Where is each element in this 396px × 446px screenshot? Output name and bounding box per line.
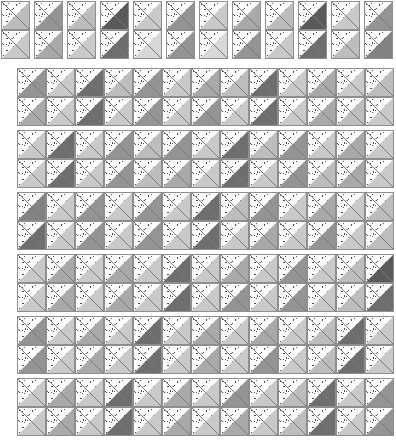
- header-tile-cell: [364, 1, 393, 30]
- band-cell: [249, 130, 278, 159]
- diagonal-edge: [18, 160, 45, 187]
- band-cell: [336, 130, 365, 159]
- band-cell: [336, 345, 365, 374]
- band-cell: [75, 159, 104, 188]
- diagonal-edge: [76, 379, 103, 406]
- band-cell: [220, 378, 249, 407]
- band-cell: [75, 130, 104, 159]
- diagonal-edge: [47, 255, 74, 282]
- diagonal-edge: [221, 69, 248, 96]
- band-cell: [249, 254, 278, 283]
- diagonal-edge: [192, 379, 219, 406]
- diagonal-edge: [366, 284, 393, 311]
- diagonal-edge: [250, 379, 277, 406]
- band-cell: [336, 97, 365, 126]
- diagonal-edge: [308, 284, 335, 311]
- band-cell: [162, 254, 191, 283]
- band-cell: [336, 192, 365, 221]
- band-cell: [104, 283, 133, 312]
- header-tile-cell: [232, 1, 261, 30]
- diagonal-edge: [47, 160, 74, 187]
- diagonal-edge: [47, 98, 74, 125]
- diagonal-edge: [366, 98, 393, 125]
- band-cell: [278, 283, 307, 312]
- diagonal-edge: [163, 408, 190, 435]
- diagonal-edge: [337, 346, 364, 373]
- diagonal-edge: [279, 222, 306, 249]
- band-cell: [220, 345, 249, 374]
- band-cell: [307, 345, 336, 374]
- diagonal-edge: [279, 255, 306, 282]
- diagonal-edge: [308, 346, 335, 373]
- diagonal-edge: [250, 193, 277, 220]
- diagonal-edge: [279, 98, 306, 125]
- band-cell: [307, 221, 336, 250]
- diagonal-edge: [105, 69, 132, 96]
- diagonal-edge: [279, 160, 306, 187]
- band-cell: [162, 407, 191, 436]
- diagonal-edge: [76, 98, 103, 125]
- header-tile-cell: [331, 1, 360, 30]
- diagonal-edge: [76, 346, 103, 373]
- diagonal-edge: [365, 31, 392, 58]
- diagonal-edge: [299, 2, 326, 29]
- diagonal-edge: [366, 69, 393, 96]
- diagonal-edge: [18, 317, 45, 344]
- diagonal-edge: [192, 408, 219, 435]
- diagonal-edge: [167, 31, 194, 58]
- band-cell: [336, 316, 365, 345]
- diagonal-edge: [250, 131, 277, 158]
- diagonal-edge: [167, 2, 194, 29]
- band-cell: [278, 316, 307, 345]
- diagonal-edge: [76, 317, 103, 344]
- band-cell: [133, 283, 162, 312]
- diagonal-edge: [68, 2, 95, 29]
- diagonal-edge: [308, 317, 335, 344]
- band-cell: [191, 130, 220, 159]
- diagonal-edge: [47, 317, 74, 344]
- band-cell: [17, 97, 46, 126]
- band-cell: [249, 316, 278, 345]
- diagonal-edge: [105, 408, 132, 435]
- diagonal-edge: [366, 193, 393, 220]
- band-cell: [249, 159, 278, 188]
- band-cell: [220, 221, 249, 250]
- diagonal-edge: [101, 2, 128, 29]
- header-tile-cell: [34, 1, 63, 30]
- diagonal-edge: [279, 131, 306, 158]
- diagonal-edge: [134, 98, 161, 125]
- band-cell: [46, 159, 75, 188]
- band-cell: [104, 159, 133, 188]
- band-cell: [365, 378, 394, 407]
- band-cell: [46, 192, 75, 221]
- band-cell: [191, 221, 220, 250]
- diagonal-edge: [308, 160, 335, 187]
- band-cell: [75, 345, 104, 374]
- header-tile-cell: [298, 30, 327, 59]
- diagonal-edge: [18, 284, 45, 311]
- band-cell: [75, 97, 104, 126]
- diagonal-edge: [134, 317, 161, 344]
- diagonal-edge: [163, 346, 190, 373]
- diagonal-edge: [47, 346, 74, 373]
- band-cell: [278, 159, 307, 188]
- band-cell: [133, 159, 162, 188]
- band-cell: [162, 378, 191, 407]
- diagonal-edge: [47, 222, 74, 249]
- diagonal-edge: [163, 98, 190, 125]
- diagonal-edge: [221, 98, 248, 125]
- band-cell: [46, 97, 75, 126]
- diagonal-edge: [366, 131, 393, 158]
- band-cell: [278, 407, 307, 436]
- band-cell: [278, 68, 307, 97]
- diagonal-edge: [221, 193, 248, 220]
- band-cell: [336, 283, 365, 312]
- diagonal-edge: [47, 379, 74, 406]
- band-cell: [162, 345, 191, 374]
- diagonal-edge: [366, 379, 393, 406]
- diagonal-edge: [279, 193, 306, 220]
- band-cell: [75, 407, 104, 436]
- diagonal-edge: [332, 31, 359, 58]
- header-tile-cell: [364, 30, 393, 59]
- band-cell: [278, 221, 307, 250]
